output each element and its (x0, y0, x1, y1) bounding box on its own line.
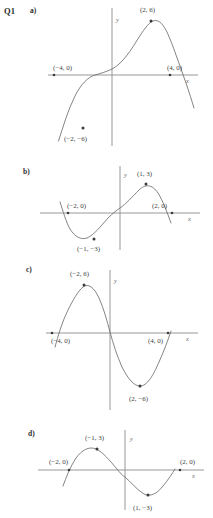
point-marker-max-d (96, 448, 99, 451)
cubic-curve-b (60, 186, 171, 239)
graph-panel-a: y x (−4, 0) (4, 0) (2, 6) (−2, −6) (0, 0, 213, 150)
point-marker-max-b (145, 183, 148, 186)
x-axis-label-b: x (187, 215, 191, 222)
point-label-max-c: (−2, 6) (70, 270, 90, 278)
point-marker-min-b (93, 238, 96, 241)
point-marker-root-left-d (68, 469, 71, 472)
y-axis-label-c: y (113, 277, 117, 284)
point-label-min-a: (−2, −6) (64, 135, 88, 143)
point-marker-root-right-d (179, 469, 182, 472)
point-label-root-right-c: (4, 0) (148, 337, 164, 345)
point-marker-max-c (83, 284, 86, 287)
graph-panel-b: y x (−2, 0) (2, 0) (1, 3) (−1, −3) (0, 150, 213, 255)
cubic-curve-c (55, 285, 171, 386)
point-label-root-right-a: (4, 0) (167, 64, 183, 72)
cubic-curve-d (63, 448, 175, 495)
point-label-max-a: (2, 6) (140, 6, 156, 14)
point-label-min-b: (−1, −3) (77, 245, 101, 253)
graph-panel-d: y x (−1, 3) (−2, 0) (2, 0) (1, −3) (0, 418, 213, 518)
point-marker-root-right-a (169, 74, 172, 77)
point-marker-root-left-c (51, 332, 54, 335)
point-label-root-right-b: (2, 0) (152, 202, 168, 210)
worksheet-page: Q1 a) y x (−4, 0) (4, 0) (2, 6) (−2, −6) (0, 0, 213, 518)
point-marker-min-d (147, 494, 150, 497)
point-label-root-left-d: (−2, 0) (49, 458, 69, 466)
point-label-root-left-c: (−4, 0) (51, 337, 71, 345)
point-marker-root-left-a (53, 74, 56, 77)
point-label-min-d: (1, −3) (133, 504, 153, 512)
point-marker-min-c (139, 385, 142, 388)
point-label-min-c: (2, −6) (129, 395, 149, 403)
y-axis-label-a: y (115, 16, 119, 23)
x-axis-label-a: x (185, 77, 189, 84)
point-marker-max-a (150, 20, 153, 23)
point-marker-min-a (82, 127, 85, 130)
point-label-root-left-b: (−2, 0) (67, 202, 87, 210)
point-label-root-left-a: (−4, 0) (53, 64, 73, 72)
y-axis-label-d: y (129, 435, 133, 442)
x-axis-label-c: x (185, 335, 189, 342)
cubic-curve-a (59, 20, 195, 141)
point-marker-root-left-b (67, 212, 70, 215)
x-axis-label-d: x (191, 472, 195, 479)
y-axis-label-b: y (123, 171, 127, 178)
point-marker-root-right-c (167, 332, 170, 335)
point-marker-root-right-b (171, 212, 174, 215)
point-label-max-d: (−1, 3) (85, 434, 105, 442)
point-label-max-b: (1, 3) (137, 170, 153, 178)
point-label-root-right-d: (2, 0) (180, 458, 196, 466)
graph-panel-c: y x (−2, 6) (−4, 0) (4, 0) (2, −6) (0, 258, 213, 418)
